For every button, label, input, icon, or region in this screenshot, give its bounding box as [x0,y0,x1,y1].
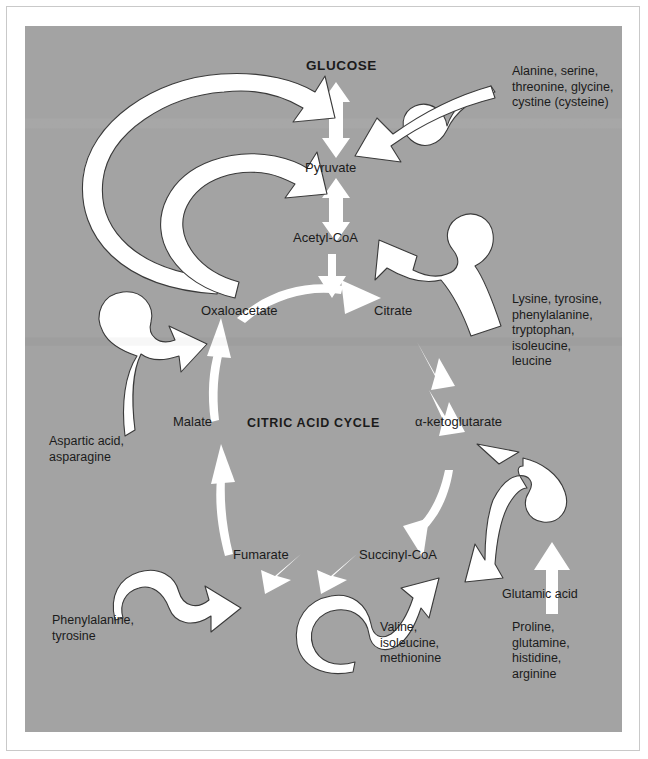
group-to-fumarate: Phenylalanine, tyrosine [52,613,134,644]
group-to-pyruvate: Alanine, serine, threonine, glycine, cys… [512,64,613,111]
cycle-title: CITRIC ACID CYCLE [247,416,380,431]
diagram-panel: .wa{fill:#ffffff;stroke:#3a3a3a;stroke-w… [25,26,622,732]
node-acetyl-coa: Acetyl-CoA [293,230,358,245]
arrow-proline-glutamicacid [534,542,570,614]
arrow-alphaketoglutarate-succinylcoa [403,470,453,558]
node-alpha-ketoglutarate: α-ketoglutarate [415,414,502,429]
node-pyruvate: Pyruvate [305,160,356,175]
arrow-malate-oxaloacetate [207,318,231,422]
figure-page: .wa{fill:#ffffff;stroke:#3a3a3a;stroke-w… [0,0,648,759]
node-citrate: Citrate [374,303,412,318]
arrow-alanine-pyruvate [355,86,495,162]
group-to-succinyl-coa: Valine, isoleucine, methionine [380,620,441,667]
group-to-acetyl-coa: Lysine, tyrosine, phenylalanine, tryptop… [512,292,602,370]
node-fumarate: Fumarate [233,547,289,562]
group-to-alpha-ketoglutarate: Glutamic acid [502,587,578,603]
node-succinyl-coa: Succinyl-CoA [359,547,437,562]
node-oxaloacetate: Oxaloacetate [201,303,278,318]
group-to-glutamic-acid: Proline, glutamine, histidine, arginine [512,620,570,682]
group-to-oxaloacetate: Aspartic acid, asparagine [49,434,124,465]
arrow-fumarate-malate [211,444,235,556]
node-glucose: GLUCOSE [306,58,377,73]
node-malate: Malate [173,414,212,429]
